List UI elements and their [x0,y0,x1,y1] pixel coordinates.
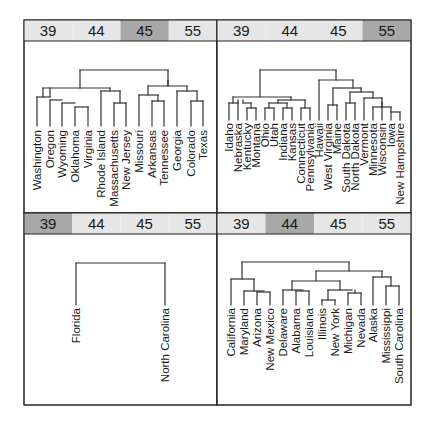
strip-label: 55 [378,215,395,232]
panel-2: 39444555IdahoNebraskaKentuckyMontanaOhio… [217,20,411,213]
strip-label: 45 [136,215,153,232]
leaf-label: Alaska [367,307,379,342]
leaf-label: New York [329,308,341,357]
leaf-label: Arizona [251,307,263,347]
leaf-label: South Carolina [393,307,405,384]
leaf-label: Wyoming [56,130,68,178]
leaf-label: New Jersey [120,130,132,190]
leaf-label: New Hampshire [394,123,406,205]
leaf-label: Oklahoma [69,129,81,182]
leaf-label: Mississippi [380,308,392,364]
strip-label: 39 [40,215,57,232]
strip-label: 55 [378,22,395,39]
leaf-label: Delaware [277,308,289,357]
leaf-label: Arkansas [146,130,158,178]
leaf-label: New Mexico [264,308,276,371]
strip-label: 45 [136,22,153,39]
leaf-label: North Carolina [159,307,171,382]
leaf-label: Virginia [82,129,94,168]
leaf-label: Texas [197,130,209,160]
strip-label: 44 [281,215,298,232]
strip-label: 55 [185,22,202,39]
strip-label: 39 [233,22,250,39]
leaf-label: Rhode Island [95,130,107,198]
leaf-label: Colorado [185,130,197,177]
panel-frame [24,213,217,405]
leaf-label: Missouri [133,130,145,173]
leaf-label: Georgia [171,129,183,171]
dendrogram-trellis-figure: 39444555WashingtonOregonWyomingOklahomaV… [0,0,434,427]
panel-1: 39444555WashingtonOregonWyomingOklahomaV… [24,20,217,213]
strip-label: 39 [233,215,250,232]
strip-label: 45 [330,215,347,232]
strip-label: 45 [330,22,347,39]
leaf-label: Michigan [342,308,354,354]
leaf-label: Washington [31,130,43,190]
leaf-label: Massachusetts [108,130,120,207]
strip-label: 44 [88,215,105,232]
leaf-label: Louisiana [303,307,315,357]
panel-3: 39444555FloridaNorth Carolina [24,213,217,405]
strip-label: 55 [185,215,202,232]
leaf-label: California [225,307,237,356]
leaf-label: Alabama [290,307,302,353]
panel-4: 39444555CaliforniaMarylandArizonaNew Mex… [217,213,411,405]
leaf-label: Florida [70,307,82,343]
leaf-label: Illinois [316,308,328,340]
strip-label: 44 [281,22,298,39]
leaf-label: Oregon [44,130,56,168]
strip-label: 44 [88,22,105,39]
leaf-label: Nevada [355,307,367,347]
strip-label: 39 [40,22,57,39]
leaf-label: Maryland [238,308,250,355]
leaf-label: Tennessee [158,130,170,186]
